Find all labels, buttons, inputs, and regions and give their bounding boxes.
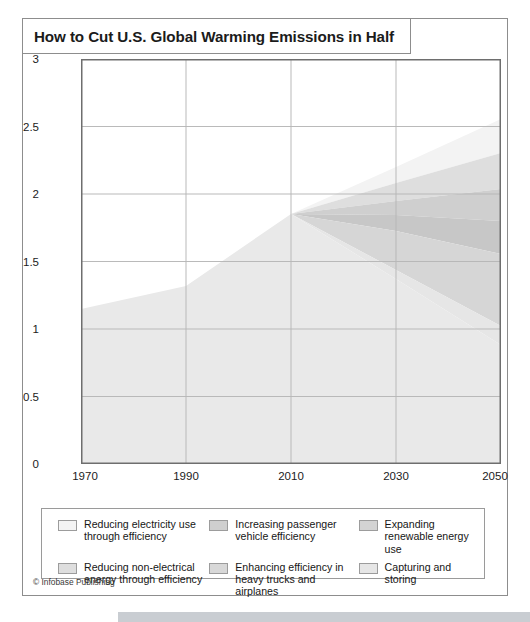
legend-item-heavy-trucks-airplanes[interactable]: Enhancing efficiency in heavy trucks and… [209, 561, 358, 598]
legend-item-label: Increasing passenger vehicle efficiency [235, 518, 358, 543]
copyright-credit: © Infobase Publishing [33, 577, 115, 587]
legend-item-label: Enhancing efficiency in heavy trucks and… [235, 561, 358, 598]
page-bottom-bar [118, 612, 530, 622]
legend-swatch-icon [58, 520, 77, 531]
legend-item-reducing-electricity[interactable]: Reducing electricity use through efficie… [42, 518, 209, 555]
area-chart-svg [81, 59, 501, 464]
legend-row-1: Reducing electricity use through efficie… [42, 518, 484, 555]
legend-item-label: Capturing and storing [385, 561, 484, 586]
x-tick-1990: 1990 [173, 470, 199, 482]
y-tick-0.5: 0.5 [0, 391, 39, 403]
y-tick-1.5: 1.5 [0, 256, 39, 268]
legend-item-label: Reducing electricity use through efficie… [84, 518, 209, 543]
x-tick-2010: 2010 [278, 470, 304, 482]
figure-panel: How to Cut U.S. Global Warming Emissions… [22, 18, 508, 596]
legend-swatch-icon [58, 563, 77, 574]
legend-swatch-icon [359, 563, 378, 574]
x-tick-1970: 1970 [72, 470, 98, 482]
legend-swatch-icon [209, 520, 228, 531]
plot-area-wrapper: In Billions of Tons of Carbon [81, 59, 501, 464]
legend-item-passenger-vehicle[interactable]: Increasing passenger vehicle efficiency [209, 518, 358, 555]
x-tick-2050: 2050 [482, 470, 508, 482]
legend-item-capturing-storing[interactable]: Capturing and storing [359, 561, 484, 598]
y-tick-2.5: 2.5 [0, 121, 39, 133]
y-tick-0: 0 [0, 458, 39, 470]
legend-item-label: Expanding renewable energy use [385, 518, 484, 555]
y-tick-2: 2 [0, 188, 39, 200]
chart-title-box: How to Cut U.S. Global Warming Emissions… [22, 18, 411, 54]
y-tick-1: 1 [0, 323, 39, 335]
y-tick-3: 3 [0, 53, 39, 65]
legend-swatch-icon [359, 520, 378, 531]
chart-legend: Reducing electricity use through efficie… [41, 508, 485, 579]
chart-plot [81, 59, 501, 464]
legend-swatch-icon [209, 563, 228, 574]
page-title: How to Cut U.S. Global Warming Emissions… [23, 28, 394, 45]
x-tick-2030: 2030 [383, 470, 409, 482]
legend-item-expanding-renewable[interactable]: Expanding renewable energy use [359, 518, 484, 555]
